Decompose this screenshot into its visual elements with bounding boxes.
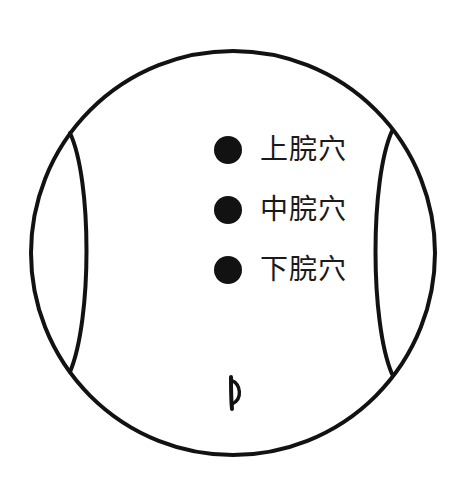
acupoint-label-xiawan: 下脘穴 — [260, 256, 347, 284]
acupoint-dot-xiawan — [214, 256, 242, 284]
acupoint-row-xiawan: 下脘穴 — [214, 256, 347, 284]
acupoint-row-shangwan: 上脘穴 — [214, 136, 347, 164]
acupoint-row-zhongwan: 中脘穴 — [214, 196, 347, 224]
torso-illustration — [0, 0, 466, 482]
acupoint-dot-shangwan — [214, 136, 242, 164]
acupoint-dot-zhongwan — [214, 196, 242, 224]
acupoint-abdomen-diagram: 上脘穴 中脘穴 下脘穴 — [0, 0, 466, 482]
acupoint-label-shangwan: 上脘穴 — [260, 136, 347, 164]
acupoint-label-zhongwan: 中脘穴 — [260, 196, 347, 224]
